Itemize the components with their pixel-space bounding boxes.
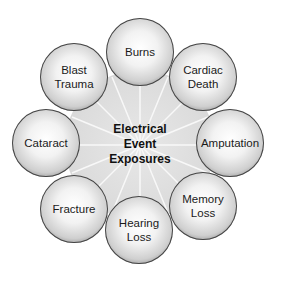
center-line-3: Exposures [90,152,190,167]
node-hearing-loss: HearingLoss [105,196,173,264]
node-label: Trauma [54,77,93,91]
node-label: Memory [182,192,224,206]
center-label: Electrical Event Exposures [90,122,190,167]
node-label: Loss [182,206,224,220]
center-line-1: Electrical [90,122,190,137]
node-label: Blast [54,63,93,77]
node-label: Death [183,77,223,91]
center-line-2: Event [90,137,190,152]
node-fracture: Fracture [40,175,108,243]
node-cataract: Cataract [12,109,80,177]
node-label: Hearing [119,216,159,230]
node-cardiac-death: CardiacDeath [169,43,237,111]
node-label: Loss [119,230,159,244]
node-label: Cataract [24,136,67,150]
node-label: Amputation [201,136,259,150]
node-label: Cardiac [183,63,223,77]
node-memory-loss: MemoryLoss [169,172,237,240]
node-label: Fracture [53,202,96,216]
node-burns: Burns [106,18,174,86]
node-amputation: Amputation [196,109,264,177]
node-blast-trauma: BlastTrauma [40,43,108,111]
node-label: Burns [125,45,155,59]
